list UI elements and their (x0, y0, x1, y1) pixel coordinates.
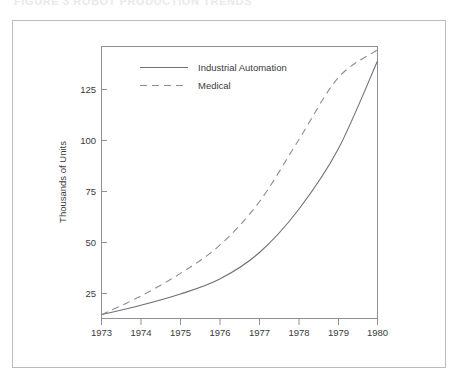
line-chart: 125 100 75 50 25 Thousands of Units 1973… (0, 0, 458, 384)
y-axis-title: Thousands of Units (57, 141, 68, 223)
x-tick-label-1979: 1979 (328, 327, 349, 338)
series-line-medical (102, 50, 378, 315)
figure-root: FIGURE 3 ROBOT PRODUCTION TRENDS 125 100… (0, 0, 458, 384)
x-tick-label-1980: 1980 (367, 327, 388, 338)
y-tick-label-50: 50 (85, 237, 96, 248)
x-axis-ticks (102, 318, 378, 325)
y-axis-tick-labels: 125 100 75 50 25 (80, 84, 96, 299)
x-tick-label-1974: 1974 (130, 327, 151, 338)
x-tick-label-1977: 1977 (249, 327, 270, 338)
chart-axes (101, 46, 378, 319)
y-tick-label-25: 25 (85, 288, 96, 299)
x-tick-label-1976: 1976 (209, 327, 230, 338)
x-axis-tick-labels: 1973 1974 1975 1976 1977 1978 1979 1980 (91, 327, 388, 338)
legend-label-medical: Medical (198, 80, 231, 91)
legend-label-industrial-automation: Industrial Automation (198, 62, 287, 73)
x-tick-label-1975: 1975 (170, 327, 191, 338)
y-tick-label-100: 100 (80, 135, 96, 146)
x-tick-label-1973: 1973 (91, 327, 112, 338)
y-tick-label-75: 75 (85, 186, 96, 197)
x-tick-label-1978: 1978 (288, 327, 309, 338)
y-tick-label-125: 125 (80, 84, 96, 95)
series-line-industrial-automation (102, 61, 378, 315)
chart-legend: Industrial Automation Medical (140, 62, 287, 91)
chart-series-group (102, 50, 378, 315)
